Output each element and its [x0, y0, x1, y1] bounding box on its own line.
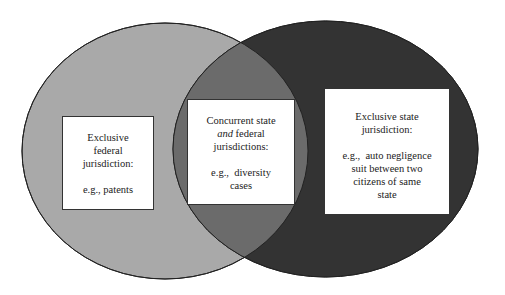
state-example-line-2: suit between two: [325, 162, 449, 175]
federal-title-line-3: jurisdiction:: [63, 157, 153, 170]
federal-title-line-2: federal: [63, 144, 153, 157]
federal-example: e.g., patents: [63, 183, 153, 196]
spacer: [325, 136, 449, 149]
concurrent-title-line-3: jurisdictions:: [188, 140, 294, 153]
state-example-line-3: citizens of same: [325, 175, 449, 188]
concurrent-example-line-2: cases: [188, 179, 294, 192]
federal-only-label-box: Exclusive federal jurisdiction: e.g., pa…: [62, 116, 154, 210]
federal-title-line-1: Exclusive: [63, 131, 153, 144]
concurrent-title-line-2-rest: federal: [233, 128, 265, 139]
state-title-line-1: Exclusive state: [325, 110, 449, 123]
concurrent-label-box: Concurrent state and federal jurisdictio…: [187, 99, 295, 205]
concurrent-title-line-1: Concurrent state: [188, 114, 294, 127]
state-only-label-box: Exclusive state jurisdiction: e.g., auto…: [324, 88, 450, 215]
state-example-line-1: e.g., auto negligence: [325, 149, 449, 162]
concurrent-and-italic: and: [217, 128, 233, 139]
concurrent-example-line-1: e.g., diversity: [188, 166, 294, 179]
concurrent-title-line-2: and federal: [188, 127, 294, 140]
state-title-line-2: jurisdiction:: [325, 123, 449, 136]
spacer: [63, 170, 153, 183]
state-example-line-4: state: [325, 188, 449, 201]
spacer: [188, 153, 294, 166]
